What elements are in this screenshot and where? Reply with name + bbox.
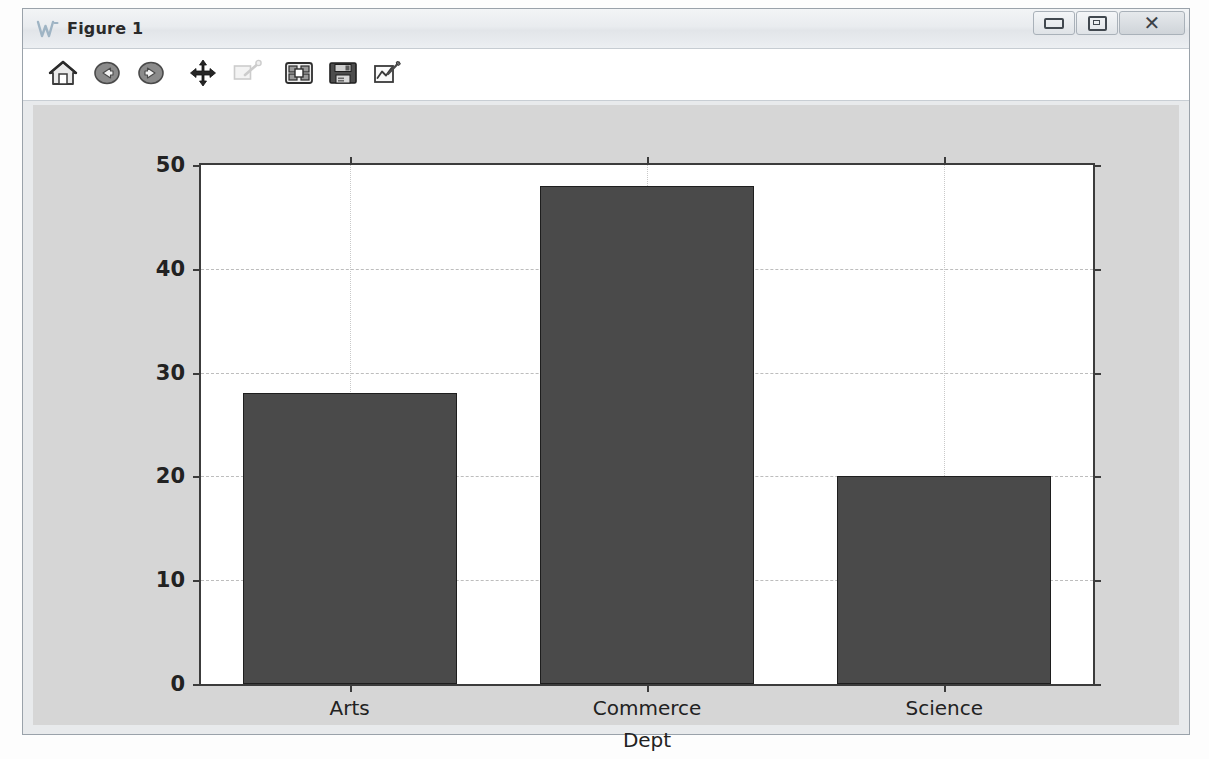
y-tick-mark-right [1093,580,1101,582]
minimize-button[interactable] [1033,11,1075,35]
chart-axes: 01020304050ArtsCommerceScienceDept [199,163,1095,686]
x-tick-mark [350,684,352,692]
back-button[interactable] [85,55,129,95]
x-tick-label: Commerce [593,696,702,720]
close-icon: ✕ [1144,13,1161,33]
navigation-toolbar [23,49,1189,101]
bar-commerce [540,186,754,684]
window-title: Figure 1 [67,19,143,38]
y-tick-label: 50 [156,153,185,177]
subplot-config-icon [284,59,314,91]
save-floppy-icon [328,59,358,91]
page-root: Figure 1 ✕ [0,0,1209,759]
y-tick-label: 30 [156,361,185,385]
edit-parameters-button[interactable] [365,55,409,95]
home-button[interactable] [41,55,85,95]
x-tick-mark-top [350,157,352,165]
maximize-button[interactable] [1076,11,1118,35]
y-tick-mark [193,373,201,375]
y-tick-mark [193,165,201,167]
zoom-button[interactable] [225,55,269,95]
x-tick-mark-top [944,157,946,165]
y-tick-mark [193,476,201,478]
x-tick-label: Arts [330,696,370,720]
x-tick-mark-top [647,157,649,165]
minimize-icon [1044,18,1064,29]
window-controls: ✕ [1032,11,1185,35]
forward-button[interactable] [129,55,173,95]
y-tick-label: 0 [170,672,185,696]
xaxis-title: Dept [623,728,671,752]
figure-window: Figure 1 ✕ [22,8,1190,735]
figure-canvas[interactable]: 01020304050ArtsCommerceScienceDept [33,105,1179,725]
x-tick-label: Science [906,696,984,720]
matplotlib-w-icon [35,18,61,40]
subplots-button[interactable] [277,55,321,95]
close-button[interactable]: ✕ [1119,11,1185,35]
pan-move-icon [188,59,218,91]
forward-arrow-icon [136,59,166,91]
y-tick-mark-right [1093,269,1101,271]
y-tick-mark [193,580,201,582]
pan-button[interactable] [181,55,225,95]
y-tick-mark [193,684,201,686]
y-tick-mark-right [1093,684,1101,686]
y-tick-label: 40 [156,257,185,281]
y-tick-label: 20 [156,464,185,488]
maximize-icon [1088,16,1107,31]
y-tick-mark-right [1093,373,1101,375]
x-tick-mark [944,684,946,692]
bar-science [837,476,1051,684]
y-tick-mark-right [1093,165,1101,167]
title-bar[interactable]: Figure 1 ✕ [23,9,1189,49]
edit-curve-icon [372,59,402,91]
save-button[interactable] [321,55,365,95]
y-tick-mark-right [1093,476,1101,478]
bar-arts [243,393,457,684]
y-tick-mark [193,269,201,271]
y-tick-label: 10 [156,568,185,592]
zoom-rect-icon [232,59,262,91]
back-arrow-icon [92,59,122,91]
home-icon [48,59,78,91]
x-tick-mark [647,684,649,692]
